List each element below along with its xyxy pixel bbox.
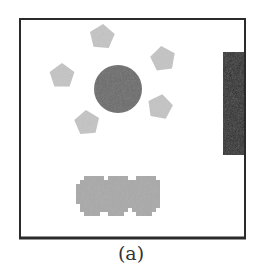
arena-diagram: [0, 0, 262, 280]
figure-a: (a): [0, 0, 262, 280]
figure-caption: (a): [0, 242, 262, 264]
wall-block: [223, 52, 244, 155]
center-circle: [94, 65, 142, 113]
arena: [19, 19, 246, 238]
blocky-cluster: [76, 176, 160, 216]
